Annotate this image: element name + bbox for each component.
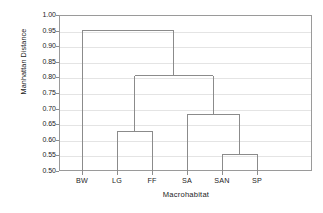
gridline	[60, 141, 311, 142]
y-axis-tick-label: 0.55	[30, 151, 56, 158]
y-axis-tick-label: 0.50	[30, 167, 56, 174]
leaf-label-san: SAN	[202, 176, 242, 185]
gridline	[60, 94, 311, 95]
y-axis-tick-label: 0.85	[30, 58, 56, 65]
x-axis-tick-mark	[257, 171, 258, 175]
leaf-label-ff: FF	[132, 176, 172, 185]
y-axis-tick-mark	[56, 155, 59, 156]
gridline	[60, 47, 311, 48]
gridline	[60, 125, 311, 126]
leaf-label-bw: BW	[62, 176, 102, 185]
y-axis-tick-mark	[56, 93, 59, 94]
gridline	[60, 156, 311, 157]
y-axis-tick-mark	[56, 77, 59, 78]
plot-area	[59, 15, 312, 171]
y-axis-tick-marks	[56, 0, 59, 213]
y-axis-tick-label: 0.90	[30, 42, 56, 49]
y-axis-tick-mark	[56, 31, 59, 32]
y-axis-tick-label: 0.60	[30, 136, 56, 143]
y-axis-tick-mark	[56, 140, 59, 141]
leaf-label-sp: SP	[237, 176, 277, 185]
y-axis-tick-label: 0.65	[30, 120, 56, 127]
leaf-label-sa: SA	[167, 176, 207, 185]
y-axis-tick-label: 0.75	[30, 89, 56, 96]
y-axis-tick-label: 1.00	[30, 11, 56, 18]
y-axis-tick-mark	[56, 109, 59, 110]
gridline	[60, 110, 311, 111]
y-axis-tick-mark	[56, 46, 59, 47]
leaf-label-lg: LG	[97, 176, 137, 185]
y-axis-title: Manhattan Distance	[19, 0, 28, 132]
x-axis-tick-mark	[82, 171, 83, 175]
y-axis-tick-label: 0.95	[30, 27, 56, 34]
y-axis-tick-mark	[56, 62, 59, 63]
gridline	[60, 32, 311, 33]
y-axis-tick-label: 0.80	[30, 73, 56, 80]
y-axis-tick-labels: 1.000.950.900.850.800.750.700.650.600.55…	[29, 0, 56, 213]
y-axis-tick-mark	[56, 124, 59, 125]
x-axis-title: Macrohabitat	[59, 190, 313, 199]
gridline	[60, 63, 311, 64]
x-axis-tick-mark	[222, 171, 223, 175]
dendrogram-figure: Manhattan Distance Macrohabitat 1.000.95…	[0, 0, 323, 213]
y-axis-tick-mark	[56, 171, 59, 172]
x-axis-tick-mark	[187, 171, 188, 175]
y-axis-tick-mark	[56, 15, 59, 16]
x-axis-tick-mark	[152, 171, 153, 175]
x-axis-tick-mark	[117, 171, 118, 175]
gridline	[60, 78, 311, 79]
y-axis-tick-label: 0.70	[30, 105, 56, 112]
